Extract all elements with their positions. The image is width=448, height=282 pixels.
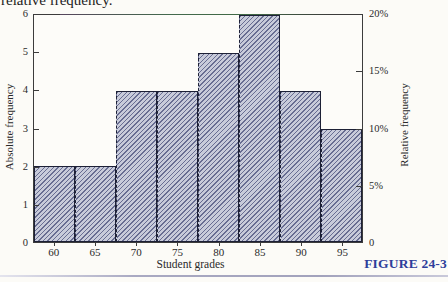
x-axis-tick-label: 65 <box>80 247 110 258</box>
page-edge-rule <box>0 275 448 277</box>
left-axis-title: Absolute frequency <box>3 84 15 170</box>
histogram-bars <box>34 15 362 242</box>
right-axis-tick-mark <box>356 71 362 72</box>
x-axis-tick-mark <box>301 242 302 246</box>
x-axis-tick-label: 60 <box>39 247 69 258</box>
x-axis-tick-label: 90 <box>286 247 316 258</box>
x-axis-tick-label: 70 <box>121 247 151 258</box>
left-axis-tick-mark <box>33 52 39 53</box>
histogram-bar <box>157 91 198 242</box>
x-axis-tick-label: 80 <box>204 247 234 258</box>
left-axis-tick-label: 6 <box>0 9 28 19</box>
x-axis-title: Student grades <box>118 258 263 270</box>
x-axis-tick-mark <box>95 242 96 246</box>
figure-24-3-page: relative frequency. 012345605%10%15%20%6… <box>0 0 448 282</box>
histogram-bar <box>116 91 157 242</box>
histogram-bar <box>34 166 75 242</box>
right-axis-tick-label: 0 <box>369 238 403 248</box>
left-axis-tick-mark <box>33 167 39 168</box>
left-axis-tick-mark <box>33 90 39 91</box>
left-axis-tick-label: 5 <box>0 47 28 57</box>
histogram-bar <box>75 166 116 242</box>
right-axis-tick-label: 20% <box>369 9 403 19</box>
right-axis-tick-mark <box>356 129 362 130</box>
x-axis-tick-mark <box>342 242 343 246</box>
right-axis-tick-label: 15% <box>369 66 403 76</box>
x-axis-tick-mark <box>54 242 55 246</box>
x-axis-tick-label: 85 <box>245 247 275 258</box>
right-axis-tick-mark <box>356 186 362 187</box>
left-axis-tick-mark <box>33 129 39 130</box>
histogram-bar <box>198 53 239 242</box>
figure-caption-label: FIGURE 24-3 <box>364 256 447 272</box>
x-axis-tick-label: 95 <box>327 247 357 258</box>
right-axis-title: Relative frequency <box>398 83 410 166</box>
histogram-bar <box>239 15 280 242</box>
left-axis-tick-label: 1 <box>0 200 28 210</box>
plot-area <box>33 14 363 243</box>
x-axis-tick-mark <box>136 242 137 246</box>
histogram-bar <box>280 91 321 242</box>
x-axis-tick-mark <box>219 242 220 246</box>
right-axis-tick-label: 5% <box>369 181 403 191</box>
left-axis-tick-label: 0 <box>0 238 28 248</box>
left-axis-tick-mark <box>33 205 39 206</box>
x-axis-tick-label: 75 <box>162 247 192 258</box>
cropped-sentence-text: relative frequency. <box>1 0 112 9</box>
x-axis-tick-mark <box>260 242 261 246</box>
x-axis-tick-mark <box>177 242 178 246</box>
